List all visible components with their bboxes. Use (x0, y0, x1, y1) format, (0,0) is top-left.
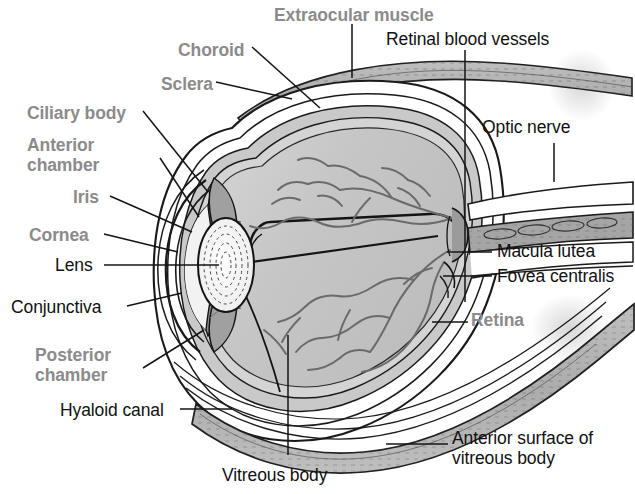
label-macula-lutea: Macula lutea (497, 241, 595, 261)
label-anterior-chamber: Anterior chamber (27, 135, 99, 175)
label-posterior-chamber: Posterior chamber (35, 345, 111, 385)
leader-sclera (216, 82, 292, 99)
label-conjunctiva: Conjunctiva (11, 297, 101, 317)
label-choroid: Choroid (178, 40, 244, 60)
label-lens: Lens (55, 255, 93, 275)
label-retinal-blood-vessels: Retinal blood vessels (386, 29, 549, 49)
eye-anatomy-figure: Extraocular muscleRetinal blood vesselsC… (0, 0, 635, 494)
label-iris: Iris (73, 187, 99, 207)
label-retina: Retina (471, 310, 524, 330)
label-sclera: Sclera (161, 74, 213, 94)
label-cornea: Cornea (29, 225, 89, 245)
label-hyaloid-canal: Hyaloid canal (60, 400, 164, 420)
label-vitreous-body: Vitreous body (222, 465, 327, 485)
label-anterior-surface: Anterior surface of vitreous body (452, 428, 593, 468)
label-optic-nerve: Optic nerve (482, 117, 570, 137)
label-extraocular-muscle: Extraocular muscle (274, 5, 434, 25)
label-ciliary-body: Ciliary body (27, 103, 126, 123)
label-fovea-centralis: Fovea centralis (497, 266, 614, 286)
